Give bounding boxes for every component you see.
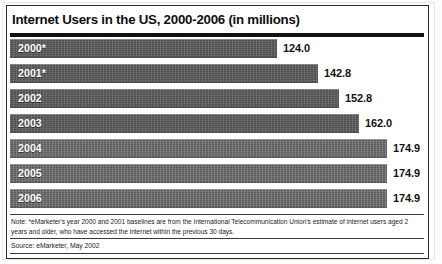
bar: 2003 <box>10 114 359 133</box>
bar: 2005 <box>10 164 387 183</box>
bottom-divider-rule <box>10 253 424 254</box>
bar-category-label: 2006 <box>18 192 42 204</box>
bar-value-label: 142.8 <box>324 67 351 79</box>
plot-area: 2000*124.02001*142.82002152.82003162.020… <box>7 39 428 214</box>
bar-row: 2004174.9 <box>7 139 428 158</box>
chart-note: Note: *eMarketer's year 2000 and 2001 ba… <box>11 217 420 238</box>
bar-row: 2005174.9 <box>7 164 428 183</box>
bar-row: 2000*124.0 <box>7 39 428 58</box>
bar: 2002 <box>10 89 339 108</box>
bar-row: 2002152.8 <box>7 89 428 108</box>
source-divider-rule <box>10 238 424 239</box>
bar-value-label: 152.8 <box>345 92 372 104</box>
bar: 2000* <box>10 39 277 58</box>
bar-value-label: 162.0 <box>365 117 392 129</box>
chart-figure: Internet Users in the US, 2000-2006 (in … <box>0 0 442 264</box>
bar: 2006 <box>10 189 387 208</box>
note-divider-rule <box>10 214 424 215</box>
bar-value-label: 174.9 <box>393 192 420 204</box>
bar-value-label: 174.9 <box>393 167 420 179</box>
bar-category-label: 2001* <box>18 67 46 79</box>
title-block: Internet Users in the US, 2000-2006 (in … <box>7 6 428 39</box>
bar-value-label: 174.9 <box>393 142 420 154</box>
chart-source: Source: eMarketer, May 2002 <box>11 242 100 249</box>
chart-title: Internet Users in the US, 2000-2006 (in … <box>12 12 300 27</box>
bar-row: 2001*142.8 <box>7 64 428 83</box>
bar-row: 2003162.0 <box>7 114 428 133</box>
bar-category-label: 2004 <box>18 142 42 154</box>
bar-category-label: 2005 <box>18 167 42 179</box>
bar-category-label: 2003 <box>18 117 42 129</box>
bar-category-label: 2002 <box>18 92 42 104</box>
bar: 2001* <box>10 64 318 83</box>
bar-category-label: 2000* <box>18 42 46 54</box>
bar-value-label: 124.0 <box>283 42 310 54</box>
title-divider-rule <box>10 33 424 37</box>
bar: 2004 <box>10 139 387 158</box>
bar-row: 2006174.9 <box>7 189 428 208</box>
